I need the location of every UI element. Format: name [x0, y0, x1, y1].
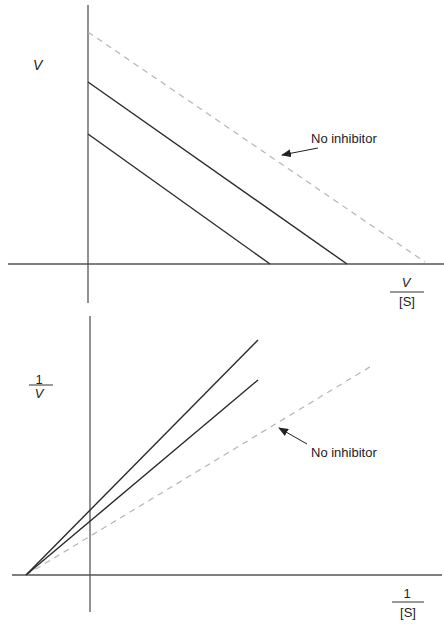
- bottom-chart: 1 V No inhibitor 1 [S]: [12, 316, 442, 620]
- figure-canvas: V No inhibitor V [S] 1 V No inhibitor 1: [0, 0, 444, 626]
- top-x-label-numerator: V: [402, 275, 412, 290]
- bottom-y-axis-label: 1 V: [29, 372, 53, 401]
- top-chart: V No inhibitor V [S]: [8, 5, 444, 309]
- bottom-no-inhibitor-annotation: No inhibitor: [279, 428, 377, 460]
- top-x-axis-label: V [S]: [390, 275, 424, 309]
- bottom-x-axis-label: 1 [S]: [392, 586, 424, 620]
- bottom-x-label-denominator: [S]: [400, 605, 416, 620]
- bottom-x-label-numerator: 1: [403, 586, 410, 601]
- top-x-label-denominator: [S]: [399, 294, 415, 309]
- top-inhibitor-high-line: [88, 134, 270, 264]
- top-no-inhibitor-annotation: No inhibitor: [282, 131, 377, 155]
- bottom-y-label-denominator: V: [35, 386, 45, 401]
- top-inhibitor-low-line: [88, 82, 347, 264]
- bottom-annotation-text: No inhibitor: [311, 445, 377, 460]
- arrow-icon: [282, 148, 318, 155]
- bottom-inhibitor-high-line: [26, 340, 258, 575]
- top-y-axis-label: V: [33, 57, 44, 73]
- arrow-icon: [279, 428, 307, 444]
- top-annotation-text: No inhibitor: [311, 131, 377, 146]
- top-no-inhibitor-line: [88, 32, 425, 262]
- bottom-no-inhibitor-line: [26, 365, 373, 575]
- bottom-inhibitor-low-line: [26, 380, 258, 575]
